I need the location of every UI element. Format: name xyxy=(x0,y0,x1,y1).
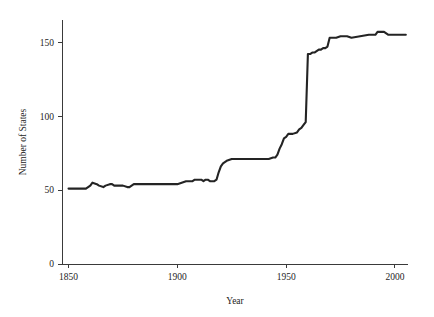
y-tick-label: 0 xyxy=(49,259,54,269)
x-tick-label: 1850 xyxy=(59,272,78,282)
y-tick-label: 100 xyxy=(40,112,55,122)
x-tick-label: 2000 xyxy=(385,272,404,282)
x-tick-label: 1900 xyxy=(168,272,187,282)
series-line-number-of-states xyxy=(69,32,406,189)
y-axis-title: Number of States xyxy=(18,108,28,175)
axes-group xyxy=(62,20,408,264)
data-series-group xyxy=(69,32,406,189)
x-axis-ticks: 1850190019502000 xyxy=(59,264,405,282)
x-axis-title: Year xyxy=(226,296,244,306)
y-tick-label: 150 xyxy=(40,38,55,48)
chart-figure: 050100150 1850190019502000 Year Number o… xyxy=(0,0,434,317)
y-tick-label: 50 xyxy=(45,185,55,195)
x-tick-label: 1950 xyxy=(277,272,296,282)
y-axis-ticks: 050100150 xyxy=(40,38,62,270)
line-chart: 050100150 1850190019502000 Year Number o… xyxy=(0,0,434,317)
